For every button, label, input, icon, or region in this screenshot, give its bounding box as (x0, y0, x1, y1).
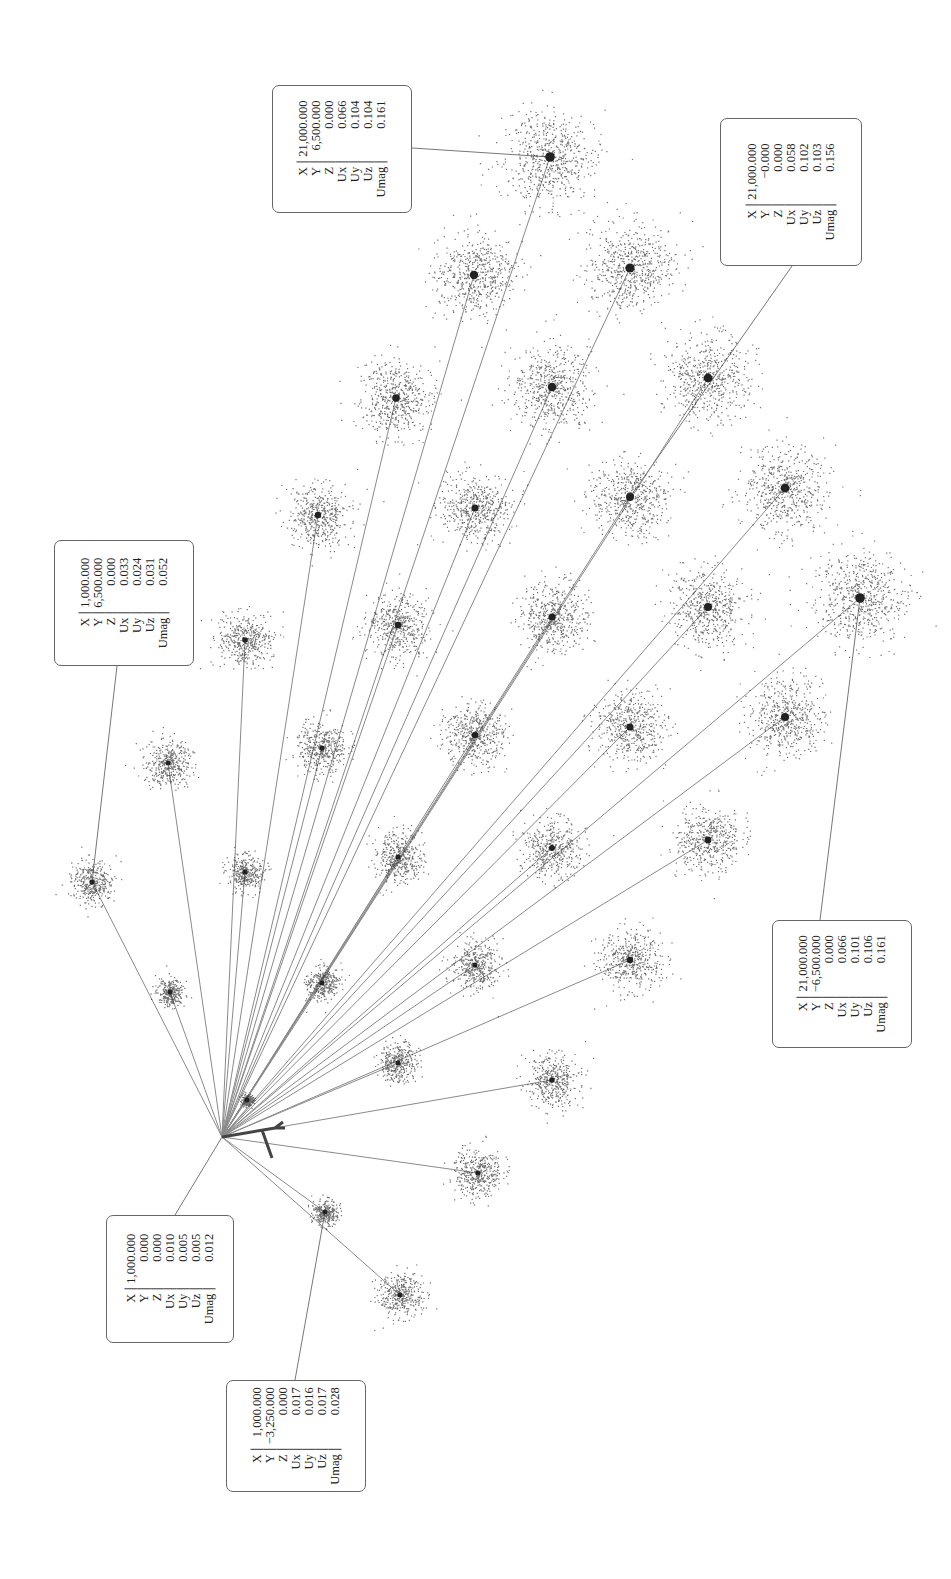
callout-x1000-y6500: X1,000.000 Y6,500.000 Z0.000 Ux0.033 Uy0… (54, 540, 194, 666)
point-cloud-cluster (479, 90, 634, 234)
ray-line (168, 763, 222, 1137)
point-cloud-cluster (340, 345, 463, 446)
point-cloud-cluster (308, 1195, 342, 1231)
point-cloud-cluster (492, 319, 625, 444)
ray-line (222, 598, 860, 1137)
callout-x1000-y0: X1,000.000 Y0.000 Z0.000 Ux0.010 Uy0.005… (106, 1215, 234, 1343)
point-cloud-cluster (417, 462, 528, 552)
value-umag: 0.012 (203, 1234, 216, 1289)
callout-leader-line (295, 1212, 325, 1380)
point-cloud-cluster (443, 1136, 510, 1207)
point-clouds (56, 90, 937, 1331)
point-cloud-cluster (370, 1264, 437, 1331)
ray-line (222, 607, 708, 1137)
ray-line (222, 1137, 400, 1295)
point-cloud-cluster (655, 549, 791, 671)
point-cloud-cluster (511, 567, 596, 671)
ray-line (222, 275, 474, 1137)
ray-line (170, 992, 222, 1137)
point-cloud-cluster (660, 789, 751, 899)
label-umag: Umag (203, 1289, 216, 1325)
callout-x1000-y-neg3250: X1,000.000 Y−3,250.000 Z0.000 Ux0.017 Uy… (226, 1380, 366, 1492)
point-cloud-cluster (556, 202, 704, 347)
label-umag: Umag (157, 613, 170, 649)
label-umag: Umag (824, 205, 837, 241)
ray-line (92, 882, 222, 1137)
value-umag: 0.161 (375, 101, 388, 162)
callout-leader-line (412, 148, 550, 157)
ray-line (222, 960, 630, 1137)
point-cloud-cluster (219, 847, 271, 898)
point-cloud-cluster (200, 606, 284, 669)
label-umag: Umag (875, 997, 888, 1033)
label-umag: Umag (329, 1449, 342, 1485)
callout-x21000-y-neg6500: X21,000.000 Y−6,500.000 Z0.000 Ux0.066 U… (772, 920, 912, 1048)
point-cloud-cluster (418, 214, 541, 348)
point-cloud-cluster (125, 727, 199, 791)
ray-line (222, 840, 708, 1137)
value-umag: 0.028 (329, 1387, 342, 1449)
point-cloud-cluster (516, 1041, 594, 1124)
origin-rays (92, 157, 860, 1295)
point-cloud-cluster (374, 1035, 423, 1087)
callout-leader-line (175, 1137, 222, 1215)
ray-line (222, 488, 785, 1137)
leader-lines (92, 148, 860, 1380)
callout-x21000-y0: X21,000.000 Y−0.000 Z0.000 Ux0.058 Uy0.1… (720, 118, 862, 266)
value-umag: 0.052 (157, 558, 170, 613)
value-umag: 0.161 (875, 935, 888, 997)
point-cloud-cluster (430, 696, 514, 775)
ray-line (222, 1137, 325, 1212)
point-cloud-cluster (352, 574, 453, 677)
point-cloud-cluster (736, 654, 832, 776)
point-cloud-cluster (650, 316, 763, 436)
label-umag: Umag (375, 162, 388, 198)
ray-line (222, 157, 550, 1137)
ray-line (222, 1137, 478, 1173)
point-cloud-cluster (151, 965, 193, 1009)
value-umag: 0.156 (824, 144, 837, 205)
callout-x21000-y6500: X21,000.000 Y6,500.000 Z0.000 Ux0.066 Uy… (272, 85, 412, 213)
point-cloud-cluster (584, 917, 682, 1009)
callout-leader-line (92, 666, 117, 882)
point-cloud-cluster (582, 680, 678, 802)
point-cloud-cluster (567, 451, 689, 545)
point-cloud-cluster (56, 847, 123, 918)
